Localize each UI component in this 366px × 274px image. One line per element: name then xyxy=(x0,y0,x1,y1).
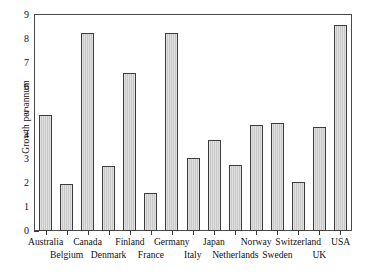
x-tick-label: Australia xyxy=(28,236,63,247)
x-tick-mark xyxy=(340,231,341,235)
x-tick-mark xyxy=(277,231,278,235)
bar xyxy=(250,125,263,231)
bar xyxy=(102,166,115,231)
bar xyxy=(208,140,221,231)
y-tick-label: 0 xyxy=(12,226,29,236)
bar xyxy=(313,127,326,231)
x-tick-mark xyxy=(151,231,152,235)
bar xyxy=(39,115,52,231)
y-tick-label: 7 xyxy=(12,58,29,68)
x-tick-label: Finland xyxy=(115,236,144,247)
bar xyxy=(123,73,136,231)
x-tick-mark xyxy=(214,231,215,235)
bar xyxy=(292,182,305,231)
x-tick-mark xyxy=(298,231,299,235)
x-tick-label: Belgium xyxy=(50,249,83,260)
bar-chart-figure: Growth per annum 0123456789 AustraliaBel… xyxy=(0,0,366,274)
x-tick-label: Sweden xyxy=(262,249,292,260)
x-tick-mark xyxy=(46,231,47,235)
x-tick-label: Denmark xyxy=(91,249,127,260)
bar xyxy=(187,158,200,231)
y-tick-label: 4 xyxy=(12,130,29,140)
x-tick-mark xyxy=(130,231,131,235)
y-tick-label: 8 xyxy=(12,34,29,44)
bar xyxy=(60,184,73,231)
x-tick-label: Switzerland xyxy=(275,236,321,247)
y-tick-label: 2 xyxy=(12,178,29,188)
x-tick-label: Japan xyxy=(203,236,225,247)
bar xyxy=(229,165,242,231)
x-tick-label: France xyxy=(138,249,164,260)
bars-container xyxy=(35,15,351,231)
x-tick-mark xyxy=(256,231,257,235)
x-tick-mark xyxy=(235,231,236,235)
x-tick-label: Canada xyxy=(73,236,102,247)
bar xyxy=(334,25,347,231)
x-tick-label: Germany xyxy=(154,236,190,247)
x-tick-label: Italy xyxy=(184,249,202,260)
bar xyxy=(165,33,178,231)
x-tick-mark xyxy=(88,231,89,235)
y-tick-label: 3 xyxy=(12,154,29,164)
y-tick-label: 1 xyxy=(12,202,29,212)
bar xyxy=(81,33,94,231)
x-tick-label: UK xyxy=(312,249,326,260)
x-tick-label: USA xyxy=(331,236,350,247)
x-tick-mark xyxy=(193,231,194,235)
x-tick-label: Norway xyxy=(241,236,272,247)
y-tick-mark xyxy=(34,231,39,232)
x-tick-mark xyxy=(319,231,320,235)
bar xyxy=(144,193,157,231)
x-tick-mark xyxy=(67,231,68,235)
y-tick-label: 5 xyxy=(12,106,29,116)
y-tick-label: 9 xyxy=(12,10,29,20)
bar xyxy=(271,123,284,231)
y-tick-label: 6 xyxy=(12,82,29,92)
x-tick-label: Netherlands xyxy=(212,249,258,260)
x-tick-mark xyxy=(172,231,173,235)
x-tick-mark xyxy=(109,231,110,235)
